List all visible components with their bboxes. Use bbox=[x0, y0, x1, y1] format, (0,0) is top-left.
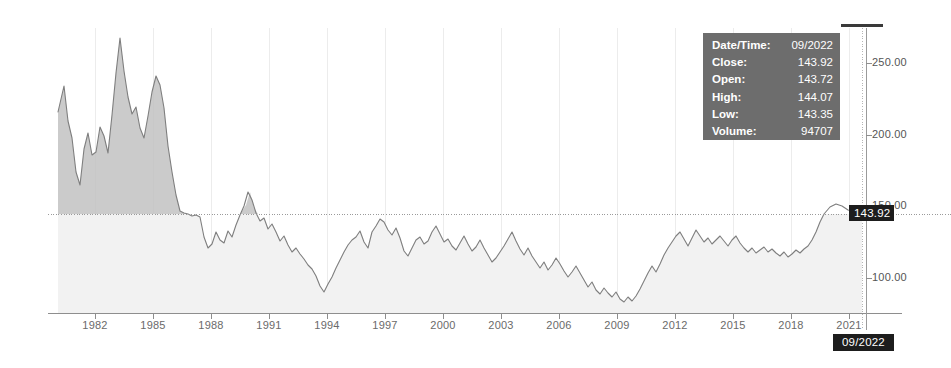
x-axis-tick-label: 1994 bbox=[314, 319, 339, 331]
chart-screenshot: 250.00 200.00 150.00 100.00 1982 1985 19… bbox=[0, 0, 951, 368]
tooltip-value: 144.07 bbox=[798, 89, 833, 106]
x-axis-tick-label: 1982 bbox=[82, 319, 107, 331]
x-axis-tick-label: 1985 bbox=[140, 319, 165, 331]
x-axis-tick-label: 1997 bbox=[372, 319, 397, 331]
x-axis-tick-label: 1991 bbox=[256, 319, 281, 331]
x-axis-tick-label: 1988 bbox=[198, 319, 223, 331]
tooltip-row-low: Low: 143.35 bbox=[703, 106, 840, 123]
tooltip-row-open: Open: 143.72 bbox=[703, 71, 840, 88]
tooltip-value: 143.92 bbox=[798, 54, 833, 71]
tooltip-label: Open: bbox=[712, 71, 745, 88]
x-axis-tick-label: 2009 bbox=[604, 319, 629, 331]
tooltip-label: Date/Time: bbox=[712, 37, 771, 54]
tooltip-label: Low: bbox=[712, 106, 739, 123]
crosshair-top-handle[interactable] bbox=[841, 24, 883, 27]
current-price-tag: 143.92 bbox=[849, 205, 894, 221]
tooltip-value: 94707 bbox=[801, 123, 833, 140]
x-axis-tick-label: 2003 bbox=[488, 319, 513, 331]
current-date-tag: 09/2022 bbox=[833, 334, 894, 351]
x-axis-tick-label: 2021 bbox=[836, 319, 861, 331]
tooltip-row-volume: Volume: 94707 bbox=[703, 123, 840, 140]
tooltip-value: 09/2022 bbox=[791, 37, 833, 54]
x-axis-tick-label: 2000 bbox=[430, 319, 455, 331]
tooltip-label: Volume: bbox=[712, 123, 757, 140]
y-axis-tick-label: 100.00 bbox=[872, 271, 907, 283]
x-axis-tick-label: 2015 bbox=[720, 319, 745, 331]
tooltip-value: 143.35 bbox=[798, 106, 833, 123]
ohlc-tooltip: Date/Time: 09/2022 Close: 143.92 Open: 1… bbox=[703, 33, 840, 140]
x-axis-tick-label: 2018 bbox=[778, 319, 803, 331]
x-axis-tick-label: 2006 bbox=[546, 319, 571, 331]
tooltip-label: Close: bbox=[712, 54, 747, 71]
tooltip-label: High: bbox=[712, 89, 741, 106]
y-axis-tick-label: 200.00 bbox=[872, 128, 907, 140]
tooltip-row-high: High: 144.07 bbox=[703, 89, 840, 106]
tooltip-value: 143.72 bbox=[798, 71, 833, 88]
tooltip-row-datetime: Date/Time: 09/2022 bbox=[703, 37, 840, 54]
y-axis-tick-label: 250.00 bbox=[872, 56, 907, 68]
x-axis-tick-label: 2012 bbox=[662, 319, 687, 331]
tooltip-row-close: Close: 143.92 bbox=[703, 54, 840, 71]
